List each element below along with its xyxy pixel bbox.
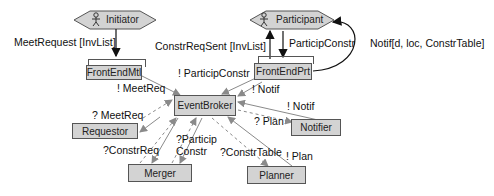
emit-notif-prt-label: ! Notif [252,83,279,95]
emit-meet-req-label: ! MeetReq [117,82,165,94]
recv-constr-table-label: ?ConstrTable [220,146,282,158]
event-broker-box: EventBroker [174,95,236,116]
planner-box: Planner [247,166,306,184]
front-end-mtl-box: FrontEndMtl [86,65,142,80]
initiator-label: Initiator [106,14,139,25]
constr-req-sent-label: ConstrReqSent [InvList] [155,40,266,52]
recv-plan-label: ? Plan [254,115,284,127]
emit-plan-label: ! Plan [286,150,313,162]
emit-notif-notifier-label: ! Notif [287,100,314,112]
recv-meet-req-label: ? MeetReq [92,109,143,121]
requestor-box: Requestor [72,123,138,139]
meet-request-label: MeetRequest [InvList] [14,36,116,48]
recv-constr-req-label: ?ConstrReq [103,144,159,156]
front-end-prt-box: FrontEndPrt [254,63,312,80]
notifier-box: Notifier [291,119,341,136]
particip-constr-label: ParticipConstr [289,37,355,49]
participant-label: Participant [276,14,323,25]
merger-box: Merger [128,164,192,182]
recv-particip-label: ?Particip [176,133,217,145]
recv-constr-label: Constr [176,145,207,157]
emit-particip-constr-label: ! ParticipConstr [178,67,250,79]
notif-participant-label: Notif[d, loc, ConstrTable] [370,37,484,49]
